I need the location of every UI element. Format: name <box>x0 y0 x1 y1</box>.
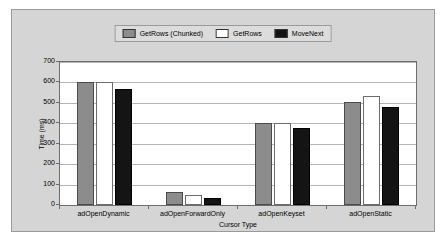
bar <box>382 107 399 205</box>
bar <box>293 128 310 205</box>
legend-item-getrows-chunked: GetRows (Chunked) <box>123 29 203 38</box>
y-tick-label: 600 <box>13 77 55 84</box>
bar <box>344 102 361 205</box>
bar-group <box>166 62 221 205</box>
legend-item-movenext: MoveNext <box>275 29 324 38</box>
bar <box>363 96 380 205</box>
bar <box>204 198 221 205</box>
plot-area <box>60 62 416 205</box>
y-tick-label: 200 <box>13 159 55 166</box>
bar <box>274 123 291 205</box>
y-tick-label: 0 <box>13 200 55 207</box>
y-tick-label: 100 <box>13 180 55 187</box>
legend-swatch-getrows <box>216 29 229 38</box>
legend-swatch-getrows-chunked <box>123 29 136 38</box>
bar <box>96 82 113 205</box>
bar <box>166 192 183 205</box>
x-tick-label: adOpenForwardOnly <box>160 209 225 218</box>
y-tick-label: 300 <box>13 139 55 146</box>
legend-label-movenext: MoveNext <box>292 29 324 38</box>
plot-area-frame <box>59 61 417 206</box>
x-tick-label: adOpenDynamic <box>77 209 129 218</box>
y-tick-mark <box>56 204 59 205</box>
bar <box>255 123 272 205</box>
y-tick-mark <box>56 163 59 164</box>
bar-group <box>77 62 132 205</box>
y-tick-mark <box>56 81 59 82</box>
bar-group <box>255 62 310 205</box>
legend-label-getrows: GetRows <box>233 29 262 38</box>
x-axis-labels: adOpenDynamicadOpenForwardOnlyadOpenKeys… <box>59 209 417 221</box>
chart-legend: GetRows (Chunked) GetRows MoveNext <box>115 25 332 42</box>
y-tick-label: 700 <box>13 57 55 64</box>
bar <box>185 195 202 205</box>
y-tick-mark <box>56 61 59 62</box>
y-tick-label: 500 <box>13 98 55 105</box>
y-tick-mark <box>56 143 59 144</box>
y-tick-mark <box>56 122 59 123</box>
x-tick-label: adOpenStatic <box>349 209 391 218</box>
bar <box>77 82 94 205</box>
legend-item-getrows: GetRows <box>216 29 262 38</box>
bar-chart-panel: GetRows (Chunked) GetRows MoveNext Time … <box>11 9 435 232</box>
y-tick-mark <box>56 102 59 103</box>
legend-swatch-movenext <box>275 29 288 38</box>
bar-group <box>344 62 399 205</box>
y-tick-label: 400 <box>13 118 55 125</box>
x-axis-title: Cursor Type <box>59 221 417 228</box>
bar <box>115 89 132 205</box>
y-tick-mark <box>56 184 59 185</box>
legend-label-getrows-chunked: GetRows (Chunked) <box>140 29 203 38</box>
x-tick-label: adOpenKeyset <box>258 209 304 218</box>
